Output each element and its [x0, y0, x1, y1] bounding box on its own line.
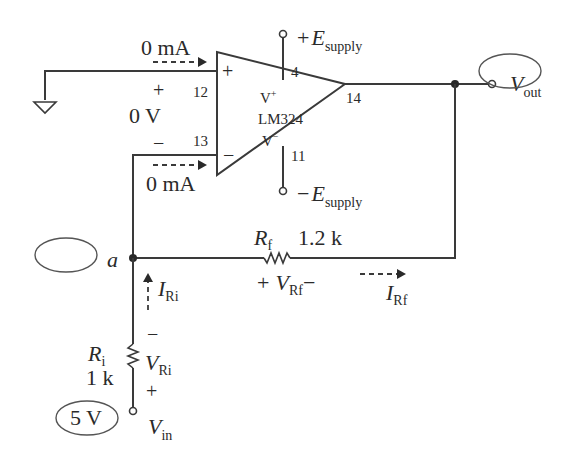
- vdiff-plus: +: [153, 79, 164, 101]
- vdiff-minus: −: [153, 132, 164, 154]
- vri-label: VRi: [145, 350, 172, 378]
- supply-neg-terminal-icon: [280, 188, 287, 195]
- vin-value: 5 V: [70, 405, 102, 430]
- input-current-noninv: 0 mA: [141, 35, 207, 67]
- vrf-label: +VRf−: [257, 270, 315, 298]
- svg-text:+Esupply: +Esupply: [297, 25, 362, 54]
- iri-label: IRi: [157, 276, 179, 304]
- svg-text:0 mA: 0 mA: [141, 35, 191, 60]
- ground-wire: [34, 71, 217, 113]
- arrow-right-icon: [198, 57, 207, 67]
- output-wire: Vout: [345, 54, 541, 100]
- ground-icon: [34, 102, 56, 113]
- opamp-plus-sign: +: [222, 60, 233, 82]
- vdiff-value: 0 V: [129, 103, 161, 128]
- opamp-part-number: LM324: [258, 111, 304, 127]
- input-current-inv: 0 mA: [146, 160, 207, 196]
- vin-terminal-icon: [130, 408, 137, 415]
- opamp: + − V+ LM324 V−: [217, 52, 345, 175]
- rf-resistor-icon: [264, 253, 290, 263]
- circuit-diagram: + − V+ LM324 V− 12 13 4 11 14 +Esupply −…: [0, 0, 573, 471]
- irf-label: IRf: [385, 280, 408, 308]
- ri-value: 1 k: [86, 365, 114, 390]
- pin-11: 11: [291, 148, 305, 164]
- arrow-up-icon: [143, 273, 153, 282]
- arrow-right-icon: [198, 160, 207, 170]
- arrow-right-icon: [397, 269, 406, 279]
- opamp-minus-sign: −: [223, 144, 234, 166]
- svg-text:0 mA: 0 mA: [146, 171, 196, 196]
- vminus-label: V−: [262, 131, 279, 149]
- pin-12: 12: [193, 84, 208, 100]
- node-a-answer-oval[interactable]: [35, 238, 97, 272]
- ri-resistor-icon: [128, 344, 138, 368]
- pin-14: 14: [346, 90, 362, 106]
- pin-4: 4: [291, 64, 299, 80]
- vri-minus: −: [147, 323, 158, 345]
- vin-label: Vin: [148, 414, 172, 443]
- rf-label: Rf: [253, 225, 272, 253]
- svg-text:−Esupply: −Esupply: [297, 181, 362, 210]
- node-a-label: a: [107, 247, 118, 272]
- vplus-label: V+: [260, 88, 277, 106]
- vri-plus: +: [146, 380, 157, 402]
- supply-pos-terminal-icon: [280, 31, 287, 38]
- rf-value: 1.2 k: [298, 225, 342, 250]
- pin-13: 13: [193, 133, 208, 149]
- input-branch: IRi Ri 1 k − VRi + Vin 5 V: [56, 258, 179, 443]
